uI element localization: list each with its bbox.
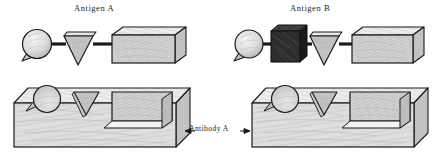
rectangular-cavity xyxy=(104,92,172,128)
inverted-triangle-shape xyxy=(64,32,96,65)
sphere-with-spike-shape xyxy=(234,30,263,61)
rectangular-block-shape xyxy=(352,27,424,63)
inverted-triangle-shape xyxy=(310,32,342,65)
rectangular-block-shape xyxy=(112,27,186,63)
antigen-b-title: Antigen B xyxy=(290,3,330,13)
figure-canvas: Antigen A Antigen B Antibody A xyxy=(0,0,438,162)
dark-cube-shape xyxy=(271,25,307,62)
antigen-a-title: Antigen A xyxy=(74,3,114,13)
arrow-right-icon xyxy=(240,129,250,134)
sphere-with-spike-shape xyxy=(22,30,52,62)
antibody-a-annotation-label: Antibody A xyxy=(189,124,229,133)
rectangular-cavity xyxy=(342,92,410,128)
antigen-b-assembly xyxy=(234,25,424,65)
antibody-a-left-block xyxy=(14,86,190,148)
antigen-a-assembly xyxy=(22,27,186,65)
antibody-a-right-block xyxy=(252,86,428,148)
diagram-svg xyxy=(0,0,438,162)
